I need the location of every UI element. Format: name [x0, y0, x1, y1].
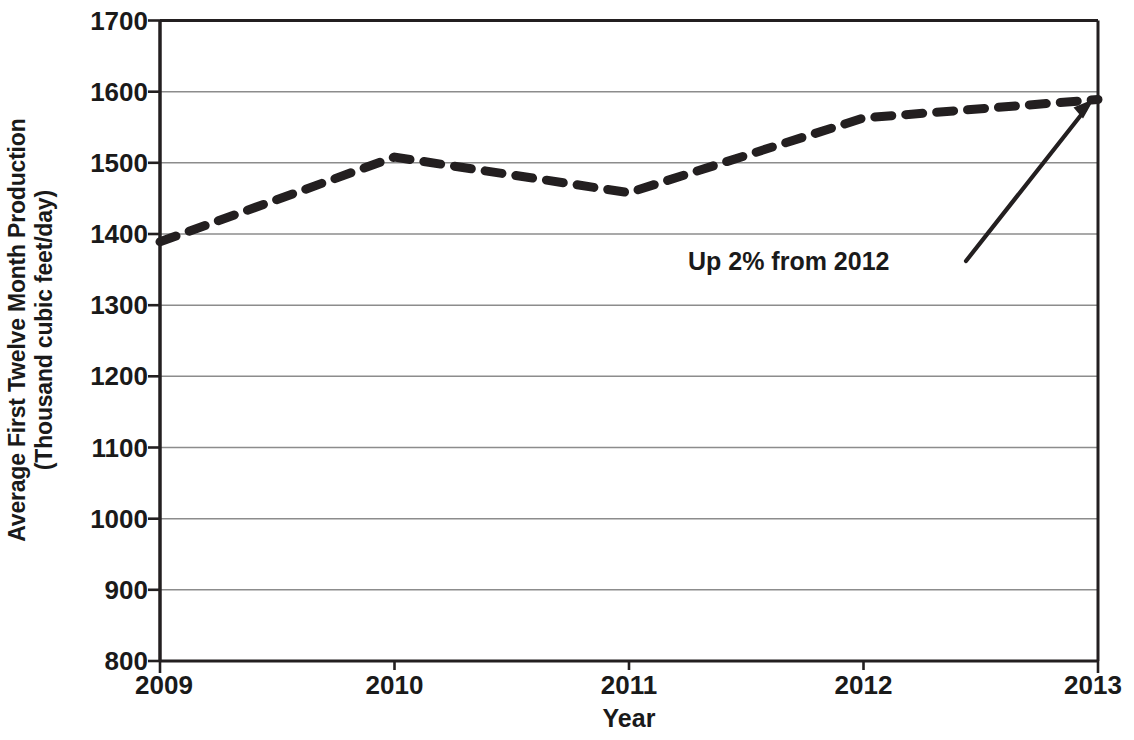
x-tick-label: 2009 [104, 672, 224, 698]
x-tick-label: 2011 [569, 672, 689, 698]
annotation-label: Up 2% from 2012 [688, 249, 889, 274]
x-tick-label: 2012 [804, 672, 924, 698]
x-axis-tick-labels: 2009 2010 2011 2012 2013 [0, 0, 1134, 740]
x-tick-label: 2010 [335, 672, 455, 698]
x-tick-label: 2013 [1033, 672, 1134, 698]
chart-figure: Average First Twelve Month Production (T… [0, 0, 1134, 740]
x-axis-title: Year [160, 706, 1098, 731]
